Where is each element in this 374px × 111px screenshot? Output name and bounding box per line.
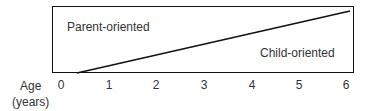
child-oriented-label: Child-oriented — [260, 46, 335, 60]
tick-2: 2 — [153, 78, 160, 92]
tick-5: 5 — [296, 78, 303, 92]
tick-4: 4 — [249, 78, 256, 92]
axis-title-unit: (years) — [12, 94, 49, 110]
axis-title: Age (years) — [12, 78, 49, 110]
tick-1: 1 — [106, 78, 113, 92]
tick-3: 3 — [201, 78, 208, 92]
tick-0: 0 — [58, 78, 65, 92]
parent-oriented-label: Parent-oriented — [67, 20, 150, 34]
axis-title-age: Age — [12, 78, 49, 94]
tick-6: 6 — [343, 78, 350, 92]
